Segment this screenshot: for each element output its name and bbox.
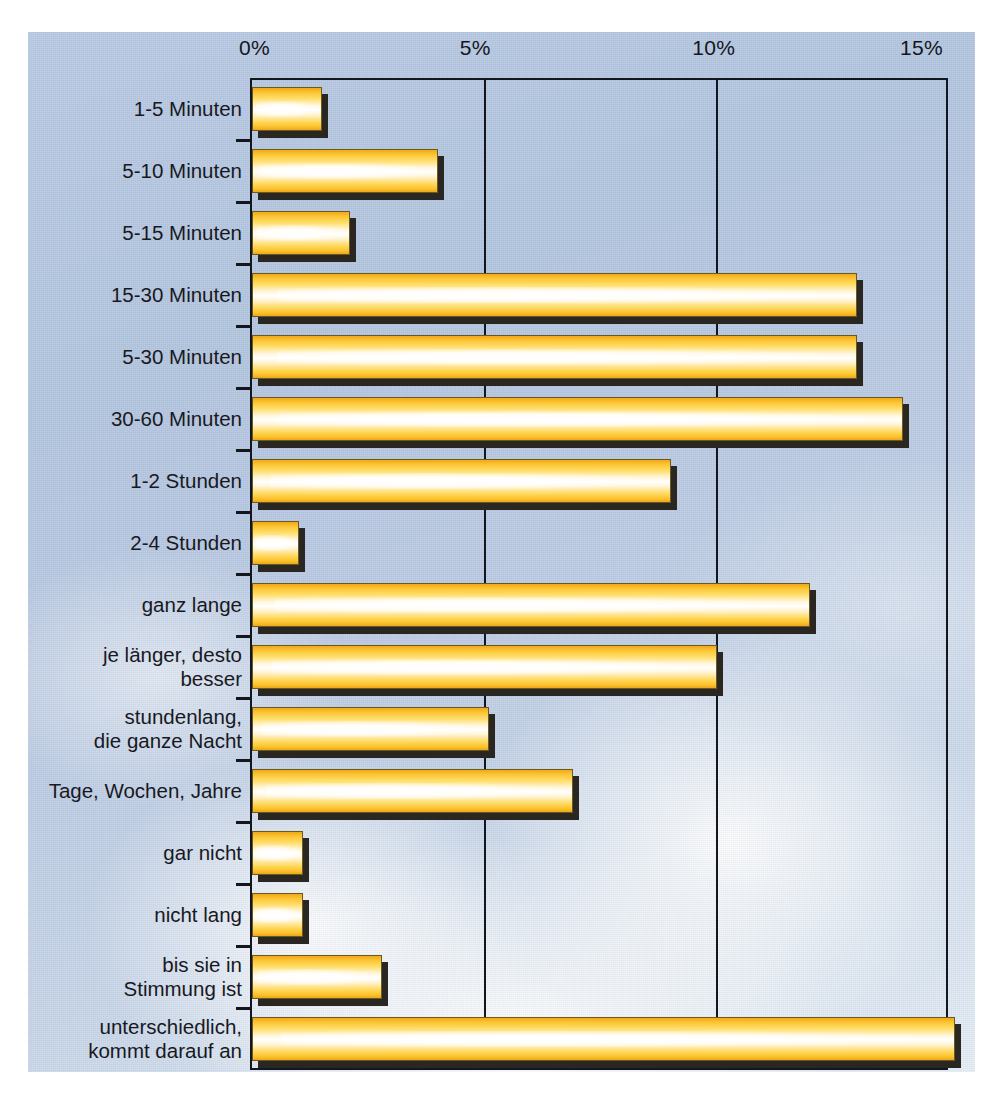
bar [252,1017,955,1061]
bar-highlight [270,473,645,488]
bar-highlight [255,845,299,860]
axis-tick-mark [236,201,250,204]
axis-tick-mark [236,883,250,886]
axis-tick-mark [236,573,250,576]
bar [252,707,489,751]
bar-highlight [255,907,299,922]
x-axis-tick-0pct: 0% [239,36,270,60]
category-label: 1-2 Stunden [0,469,242,493]
category-label: bis sie in Stimmung ist [0,953,242,1001]
category-label: ganz lange [0,593,242,617]
bar [252,831,303,875]
bar-highlight [277,287,820,302]
category-label: Tage, Wochen, Jahre [0,779,242,803]
bar-highlight [257,225,343,240]
axis-tick-mark [236,387,250,390]
bar-body [252,87,322,131]
category-label: 1-5 Minuten [0,97,242,121]
category-label: je länger, desto besser [0,643,242,691]
bar-body [252,149,438,193]
axis-tick-mark [236,759,250,762]
plot-area [250,78,948,1070]
category-label: 2-4 Stunden [0,531,242,555]
axis-tick-mark [236,139,250,142]
bar-body [252,645,717,689]
axis-tick-mark [236,635,250,638]
bar-body [252,521,299,565]
axis-tick-mark [236,449,250,452]
bar [252,211,350,255]
bar-body [252,955,382,999]
chart-page: 0%5%10%15% 1-5 Minuten5-10 Minuten5-15 M… [0,0,1000,1097]
bar-body [252,831,303,875]
category-label: stundenlang, die ganze Nacht [0,705,242,753]
bar [252,335,857,379]
bar-highlight [279,411,864,426]
axis-tick-mark [236,511,250,514]
x-axis-tick-5pct: 5% [460,36,491,60]
bar-highlight [277,349,820,364]
bar-body [252,459,671,503]
axis-tick-mark [236,945,250,948]
bar [252,893,303,937]
bar-body [252,335,857,379]
bar-highlight [258,969,373,984]
bar [252,397,903,441]
bar-highlight [256,101,317,116]
bar-highlight [260,163,426,178]
category-label: 5-30 Minuten [0,345,242,369]
bar [252,521,299,565]
x-axis-tick-15pct: 15% [900,36,943,60]
category-label: unterschiedlich, kommt darauf an [0,1015,242,1063]
axis-tick-mark [236,1007,250,1010]
axis-tick-mark [236,697,250,700]
bar-body [252,211,350,255]
bar-body [252,893,303,937]
bar [252,149,438,193]
bar [252,273,857,317]
axis-tick-mark [236,821,250,824]
bar-highlight [272,659,689,674]
bar-highlight [281,1031,912,1046]
bar [252,645,717,689]
category-label: nicht lang [0,903,242,927]
bar-body [252,769,573,813]
bar-body [252,1017,955,1061]
gridline-10pct [716,80,718,1068]
category-label: 5-15 Minuten [0,221,242,245]
gridline-5pct [484,80,486,1068]
bar-body [252,583,810,627]
bar-highlight [255,535,295,550]
bar [252,955,382,999]
bar [252,87,322,131]
bar-body [252,707,489,751]
category-label: 15-30 Minuten [0,283,242,307]
bar [252,769,573,813]
axis-tick-mark [236,263,250,266]
bar-body [252,273,857,317]
bar-highlight [266,783,553,798]
bar-highlight [262,721,474,736]
bar [252,459,671,503]
x-axis-tick-10pct: 10% [692,36,735,60]
axis-tick-mark [236,325,250,328]
bar-highlight [275,597,776,612]
bar [252,583,810,627]
category-label: gar nicht [0,841,242,865]
category-label: 5-10 Minuten [0,159,242,183]
category-label: 30-60 Minuten [0,407,242,431]
bar-body [252,397,903,441]
